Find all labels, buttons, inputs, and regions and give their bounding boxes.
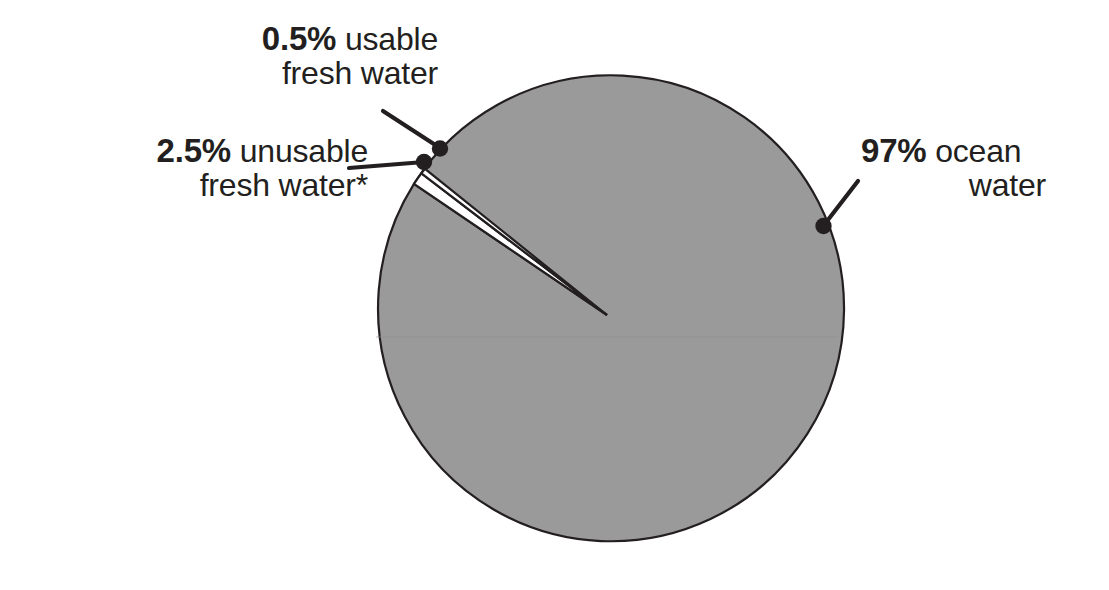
callout-label-usable-fresh-water: 0.5% usable fresh water: [0, 22, 438, 91]
callout-text-usable-line2: fresh water: [0, 57, 438, 91]
callout-label-ocean-water: 97% ocean water: [861, 134, 1101, 203]
callout-text-unusable-line1: unusable: [240, 133, 368, 169]
callout-text-ocean-line2: water: [861, 169, 1046, 203]
callout-text-ocean-space: [926, 133, 935, 169]
callout-percent-unusable: 2.5%: [157, 132, 231, 169]
pie-slice-ocean-water[interactable]: [378, 75, 844, 541]
pie-chart-figure: 0.5% usable fresh water 2.5% unusable fr…: [0, 0, 1109, 590]
leader-dot-usable-fresh-water: [432, 140, 448, 156]
callout-line-usable-1: 0.5% usable: [0, 22, 438, 57]
leader-line-usable-fresh-water: [383, 111, 440, 148]
leader-dot-ocean-water: [815, 218, 831, 234]
callout-label-unusable-fresh-water: 2.5% unusable fresh water*: [0, 134, 368, 203]
callout-percent-ocean: 97%: [861, 132, 926, 169]
callout-text-unusable-line2: fresh water*: [0, 169, 368, 203]
callout-line-ocean-1: 97% ocean: [861, 134, 1101, 169]
callout-line-unusable-1: 2.5% unusable: [0, 134, 368, 169]
callout-text-usable-1: [336, 21, 345, 57]
callout-text-usable-line1: usable: [345, 21, 438, 57]
leader-dot-unusable-fresh-water: [416, 154, 432, 170]
callout-text-unusable-space: [231, 133, 240, 169]
leader-line-ocean-water: [824, 181, 858, 225]
callout-text-ocean-line1: ocean: [935, 133, 1021, 169]
callout-percent-usable: 0.5%: [262, 20, 336, 57]
